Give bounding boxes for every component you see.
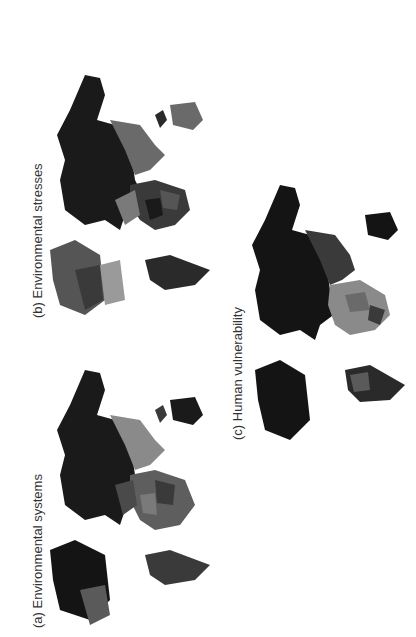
panel-label-c: (c) Human vulnerability bbox=[230, 307, 245, 440]
panel-label-a: (a) Environmental systems bbox=[30, 474, 45, 628]
map-environmental-systems bbox=[45, 365, 215, 635]
map-human-vulnerability bbox=[250, 180, 410, 480]
panel-label-b: (b) Environmental stresses bbox=[30, 163, 45, 318]
map-environmental-stresses bbox=[45, 70, 215, 320]
